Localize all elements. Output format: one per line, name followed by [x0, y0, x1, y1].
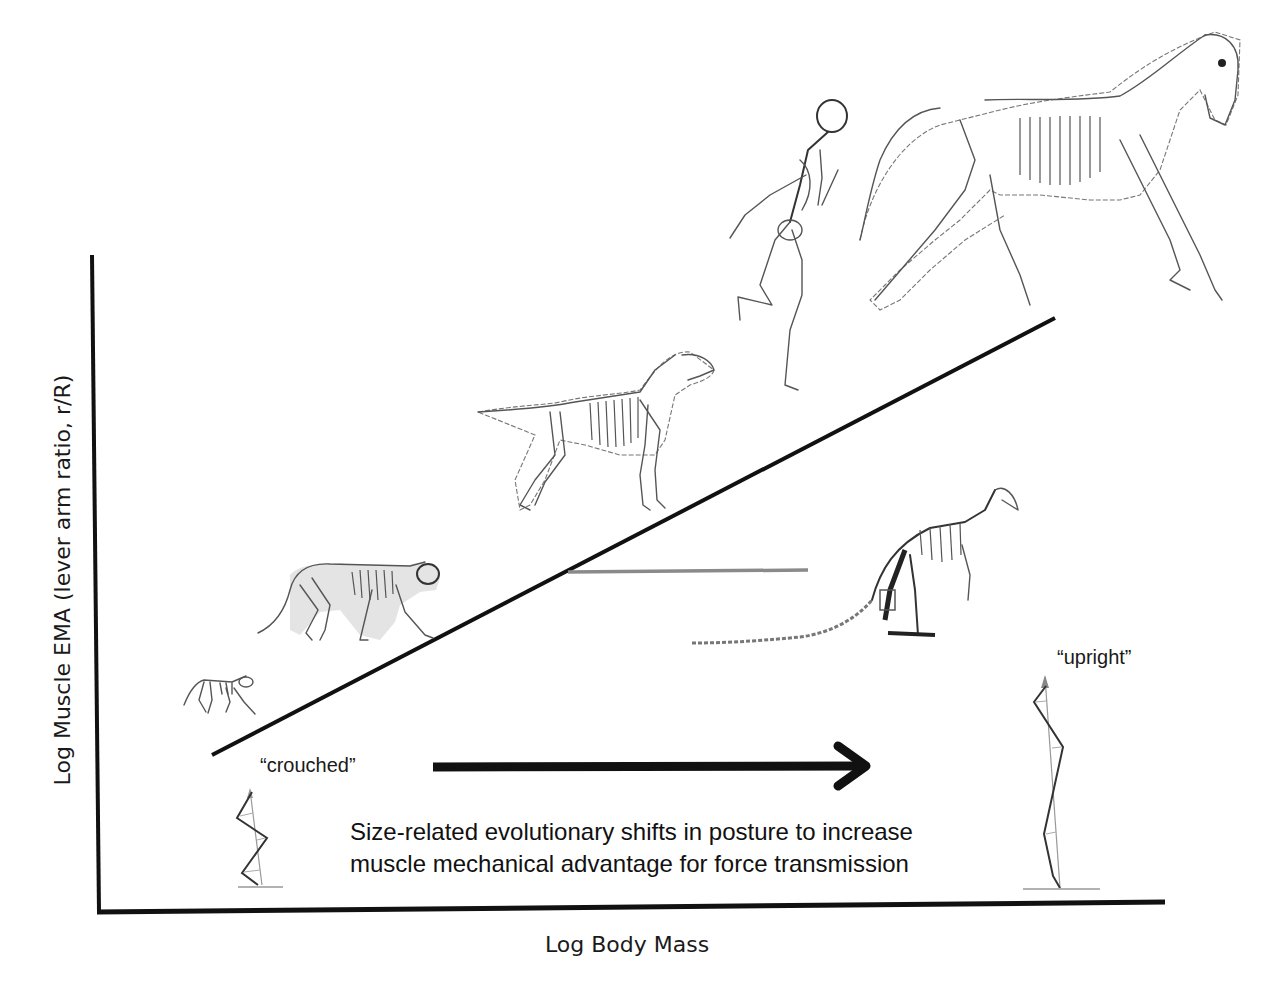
- human-skeleton-icon: [730, 100, 847, 390]
- x-axis-line: [97, 902, 1165, 912]
- horse-skeleton-icon: [860, 32, 1240, 310]
- small-mammal-skeleton-icon: [184, 676, 255, 714]
- caption-line-2: muscle mechanical advantage for force tr…: [350, 850, 909, 877]
- crouched-limb-icon: [237, 788, 283, 887]
- caption-line-1: Size-related evolutionary shifts in post…: [350, 818, 913, 845]
- upright-label: “upright”: [1057, 646, 1131, 668]
- upright-limb-icon: [1023, 675, 1100, 889]
- dog-skeleton-icon: [478, 352, 714, 510]
- x-axis-title: Log Body Mass: [545, 932, 709, 957]
- trend-line: [212, 318, 1055, 755]
- crouched-label: “crouched”: [260, 754, 356, 776]
- y-axis-title: Log Muscle EMA (lever arm ratio, r/R): [50, 375, 75, 786]
- cat-skeleton-icon: [258, 562, 440, 640]
- kangaroo-skeleton-icon: [692, 488, 1018, 643]
- y-axis-line: [92, 255, 99, 912]
- reference-line: [568, 570, 808, 572]
- right-arrow-icon: [433, 746, 866, 786]
- scaling-diagram: Log Muscle EMA (lever arm ratio, r/R) Lo…: [0, 0, 1286, 984]
